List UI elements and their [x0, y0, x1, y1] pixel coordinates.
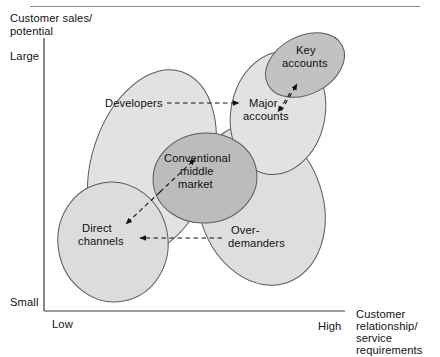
bubble-label-key-accounts-line-2: accounts: [282, 57, 328, 70]
y-axis-title-line-2: potential: [10, 25, 53, 38]
x-axis-tick-low: Low: [52, 318, 73, 331]
bubble-label-over-demanders-line-2: demanders: [228, 237, 285, 250]
bubble-label-major-accounts-line-2: accounts: [243, 110, 289, 123]
bubble-label-direct-channels-line-1: Direct: [82, 222, 112, 235]
bubble-label-developers: Developers: [105, 97, 163, 110]
bubble-label-over-demanders-line-1: Over-: [231, 224, 259, 237]
bubble-label-major-accounts-line-1: Major: [249, 97, 277, 110]
x-axis-tick-high: High: [318, 320, 341, 333]
bubble-label-conventional-line-3: market: [178, 178, 213, 191]
bubble-label-conventional-line-2: middle: [180, 165, 214, 178]
bubble-label-key-accounts-line-1: Key: [296, 44, 316, 57]
x-axis-title-line-2: relationship/: [356, 320, 418, 333]
x-axis-title-line-1: Customer: [356, 308, 405, 321]
x-axis-title-line-4: requirements: [356, 344, 423, 357]
x-axis-title-line-3: service: [356, 332, 392, 345]
y-axis-title-line-1: Customer sales/: [10, 12, 92, 25]
y-axis-tick-large: Large: [10, 50, 39, 63]
bubble-label-conventional-line-1: Conventional: [164, 152, 231, 165]
bubble-label-direct-channels-line-2: channels: [78, 235, 124, 248]
y-axis-tick-small: Small: [10, 296, 38, 309]
